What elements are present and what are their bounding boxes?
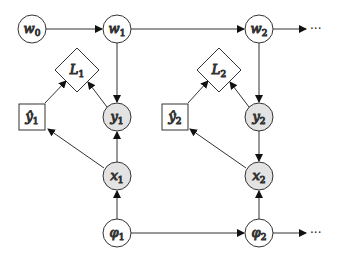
node-yhat1: ŷ1 <box>19 104 45 130</box>
graphical-model-diagram: w0 w1 w2 L1 L2 ŷ1 ŷ2 y1 <box>0 0 351 261</box>
edge-yhat2-L2 <box>188 81 208 103</box>
node-x1: x1 <box>103 162 131 190</box>
node-w1: w1 <box>103 15 131 43</box>
node-yhat2: ŷ2 <box>162 104 188 130</box>
node-y2: y2 <box>245 103 273 131</box>
edge-y1-L1 <box>88 82 107 107</box>
node-y1: y1 <box>103 103 131 131</box>
continuation-top: ··· <box>310 22 321 36</box>
node-phi2: φ2 <box>245 219 273 247</box>
edge-x2-yhat2 <box>190 129 246 168</box>
node-phi1: φ1 <box>103 219 131 247</box>
continuation-bottom: ··· <box>310 226 321 240</box>
node-x2: x2 <box>245 162 273 190</box>
edge-x1-yhat1 <box>48 129 104 168</box>
node-w0: w0 <box>18 15 46 43</box>
edge-y2-L2 <box>230 82 249 107</box>
node-w2: w2 <box>245 15 273 43</box>
edge-yhat1-L1 <box>45 81 66 103</box>
